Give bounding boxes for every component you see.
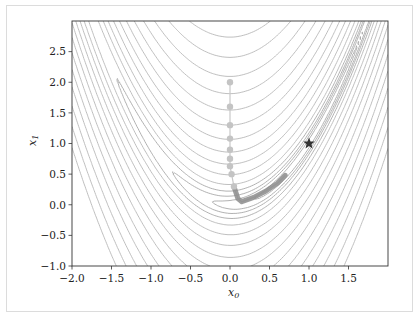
- svg-text:−1.0: −1.0: [41, 260, 67, 272]
- y-axis-label: x1: [26, 135, 40, 146]
- svg-text:1.0: 1.0: [301, 272, 318, 284]
- svg-text:1.0: 1.0: [49, 137, 66, 149]
- svg-text:1.5: 1.5: [49, 107, 66, 119]
- contour-plot: −2.0−1.5−1.0−0.50.00.51.01.5 −1.0−0.50.0…: [0, 0, 417, 327]
- svg-text:0.5: 0.5: [49, 168, 66, 180]
- svg-text:−2.0: −2.0: [59, 272, 85, 284]
- svg-text:−1.5: −1.5: [99, 272, 125, 284]
- x-axis-ticks: −2.0−1.5−1.0−0.50.00.51.01.5: [59, 266, 357, 284]
- svg-text:2.5: 2.5: [49, 45, 66, 57]
- svg-text:0.0: 0.0: [222, 272, 239, 284]
- svg-text:x1: x1: [26, 135, 40, 146]
- svg-text:0.0: 0.0: [49, 199, 66, 211]
- svg-text:2.0: 2.0: [49, 76, 66, 88]
- svg-text:−0.5: −0.5: [178, 272, 204, 284]
- svg-text:0.5: 0.5: [261, 272, 278, 284]
- svg-text:1.5: 1.5: [340, 272, 357, 284]
- y-axis-ticks: −1.0−0.50.00.51.01.52.02.5: [41, 45, 73, 271]
- x-axis-label: x0: [228, 286, 239, 300]
- svg-text:−1.0: −1.0: [138, 272, 164, 284]
- svg-text:−0.5: −0.5: [41, 229, 67, 241]
